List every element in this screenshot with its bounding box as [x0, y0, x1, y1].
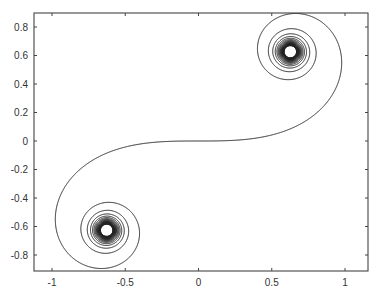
axes-frame: [34, 13, 368, 271]
chart: -1-0.500.51 0.80.60.40.20-0.2-0.4-0.6-0.…: [0, 0, 377, 299]
y-tick-label: -0.2: [11, 164, 29, 175]
x-tick-label: 0.5: [265, 277, 279, 288]
plot-area: [55, 13, 341, 268]
spiral-curve: [55, 13, 341, 268]
y-tick-label: 0.8: [14, 22, 28, 33]
x-tick-label: 0: [196, 277, 202, 288]
y-tick-label: -0.8: [11, 250, 29, 261]
x-tick-label: -0.5: [117, 277, 135, 288]
y-tick-label: 0.6: [14, 50, 28, 61]
x-tick-label: 1: [342, 277, 348, 288]
x-tick-label: -1: [48, 277, 57, 288]
y-tick-label: -0.6: [11, 221, 29, 232]
y-tick-label: 0: [22, 136, 28, 147]
y-tick-label: -0.4: [11, 193, 29, 204]
y-tick-label: 0.4: [14, 79, 28, 90]
y-tick-label: 0.2: [14, 107, 28, 118]
